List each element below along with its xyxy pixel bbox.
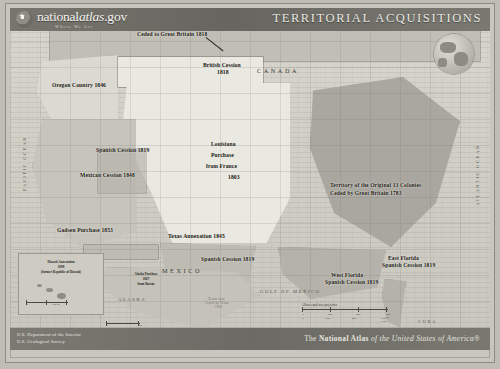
national-atlas-brand: The National Atlas of the United States …: [304, 334, 480, 343]
label-gadsen-purchase-1853: Gadsen Purchase 1853: [57, 227, 113, 235]
territorial-acquisitions-poster: nationalatlas.gov Where We Are TERRITORI…: [0, 0, 500, 369]
label-louisiana-purchase-line3: from France: [206, 163, 237, 171]
main-tick-mi-0: 0: [302, 313, 303, 316]
logo-tagline: Where We Are: [55, 25, 127, 29]
note-texas-ceded-line3: 1850: [215, 305, 222, 309]
brand-bold: National Atlas: [319, 334, 369, 343]
geo-label-atlantic-ocean: ATLANTIC OCEAN: [475, 144, 480, 206]
label-texas-annexation-1845: Texas Annexation 1845: [168, 233, 225, 241]
globe-inset-icon: [434, 34, 474, 74]
geo-label-pacific-ocean: PACIFIC OCEAN: [22, 136, 27, 191]
label-west-florida-line2: Spanish Cession 1819: [325, 279, 378, 287]
hawaii-island-1: [37, 284, 42, 287]
hawaii-tick-mi-0: 0: [26, 303, 27, 306]
geo-label-canada: CANADA: [257, 67, 299, 74]
main-tick-km-0: 0: [302, 317, 303, 320]
main-tick-km-1: 200: [326, 317, 330, 320]
label-ceded-great-britain-1818: Ceded to Great Britain 1818: [137, 31, 207, 39]
label-british-cession-line2: 1818: [217, 69, 229, 77]
main-tick-km-2: 400: [352, 317, 356, 320]
agency-line-1: U.S. Department of the Interior: [17, 332, 81, 339]
brand-rest: of the United States of America: [369, 334, 474, 343]
main-tick-mi-1: 200: [328, 313, 332, 316]
map-canvas: CANADA MEXICO GULF OF MEXICO PACIFIC OCE…: [10, 31, 490, 328]
label-mexican-cession-1848: Mexican Cession 1848: [80, 172, 135, 180]
hawaii-inset: Hawaii Annexation 1898 (former Republic …: [18, 253, 104, 315]
logo-suffix: .gov: [104, 9, 127, 24]
label-louisiana-purchase-line1: Louisiana: [211, 141, 236, 149]
star-seal-icon: [16, 11, 33, 28]
agency-line-2: U.S. Geological Survey: [17, 339, 81, 346]
brand-logo-group: nationalatlas.gov Where We Are: [16, 8, 127, 31]
alaska-tick-mi-0: 0: [106, 324, 107, 327]
poster-footer-bar: U.S. Department of the Interior U.S. Geo…: [10, 328, 490, 350]
nationalatlas-logo: nationalatlas.gov: [37, 10, 127, 24]
poster-header-bar: nationalatlas.gov Where We Are TERRITORI…: [10, 8, 490, 31]
logo-prefix: national: [37, 9, 79, 24]
hawaii-island-2: [46, 288, 53, 292]
label-louisiana-purchase-line4: 1803: [228, 174, 240, 182]
main-scale-km-ticks: 0 200 400 600 KM: [302, 317, 388, 321]
main-scale-bar: Albers equal area projection 0 200 400 6…: [302, 303, 388, 321]
brand-the: The: [304, 334, 319, 343]
logo-text-wrap: nationalatlas.gov Where We Are: [37, 10, 127, 29]
hawaii-inset-line3: (former Republic of Hawaii): [19, 270, 103, 275]
label-oregon-country-1846: Oregon Country 1846: [52, 82, 106, 90]
logo-italic: atlas: [79, 9, 104, 24]
geo-label-cuba: CUBA: [418, 319, 437, 324]
geo-label-gulf-of-mexico: GULF OF MEXICO: [260, 289, 321, 294]
label-louisiana-purchase-line2: Purchase: [211, 152, 234, 160]
hawaii-tick-mi-1: 100 MI: [52, 303, 60, 306]
main-tick-mi-2: 400: [356, 313, 360, 316]
alaska-inset-line3: from Russia: [103, 282, 189, 287]
main-tick-km-3: 600 KM: [382, 317, 386, 323]
label-original-13-colonies-line2: Ceded by Great Britain 1783: [330, 190, 402, 198]
hawaii-island-3: [57, 293, 66, 299]
brand-registered-mark: ®: [474, 334, 480, 343]
hawaii-scale-mi: 0 100 MI: [26, 303, 68, 307]
agency-credit: U.S. Department of the Interior U.S. Geo…: [17, 332, 81, 346]
page-title: TERRITORIAL ACQUISITIONS: [272, 11, 482, 26]
main-scale-title: Albers equal area projection: [302, 303, 388, 307]
label-spanish-cession-1819-texas: Spanish Cession 1819: [201, 256, 254, 264]
main-scale-line: [302, 309, 388, 310]
alaska-scale-bar: 0 300 MI 0 300 KM: [106, 321, 140, 328]
label-original-13-colonies-line1: Territory of the Original 13 Colonies: [330, 182, 421, 190]
hawaii-scale-bar: 0 100 MI: [26, 300, 68, 307]
label-spanish-cession-1819-west: Spanish Cession 1819: [96, 147, 149, 155]
label-east-florida-line2: Spanish Cession 1819: [382, 262, 435, 270]
alaska-inset: Alaska Purchase 1867 from Russia: [102, 253, 190, 315]
